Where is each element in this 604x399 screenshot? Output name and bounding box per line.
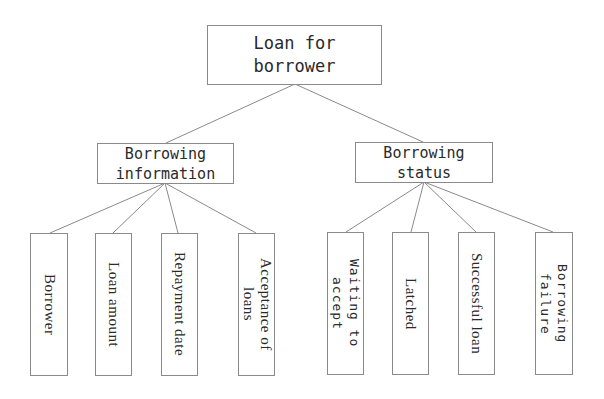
node-borrowing-information: Borrowing information [97, 143, 234, 184]
edge-root-to-borrowing-information [166, 84, 295, 143]
leaf-acceptance-of-loans: Acceptance of loans [238, 233, 275, 376]
leaf-latched-label: Latched [402, 278, 419, 330]
edge-status-to-successful [424, 182, 476, 232]
leaf-borrower-label: Borrower [41, 274, 58, 335]
leaf-acceptance-of-loans-label: Acceptance of loans [240, 258, 274, 351]
leaf-repayment-date: Repayment date [161, 233, 198, 376]
leaf-loan-amount-label: Loan amount [105, 262, 122, 347]
leaf-borrowing-failure-label: Borrowing failure [537, 264, 571, 343]
edge-root-to-borrowing-status [295, 84, 423, 142]
leaf-successful-loan-label: Successful loan [468, 253, 485, 354]
edge-info-to-acceptance [165, 183, 256, 233]
leaf-waiting-to-accept: Waiting to accept [327, 232, 364, 375]
leaf-borrower: Borrower [30, 233, 68, 376]
edge-info-to-borrower [50, 183, 165, 233]
edge-info-to-repayment-date [165, 183, 178, 233]
root-node-label: Loan for borrower [254, 32, 336, 78]
edge-status-to-waiting [346, 182, 424, 232]
node-borrowing-information-label: Borrowing information [116, 144, 215, 184]
root-node-loan-for-borrower: Loan for borrower [207, 25, 382, 85]
leaf-loan-amount: Loan amount [95, 233, 132, 376]
node-borrowing-status: Borrowing status [355, 142, 493, 183]
leaf-borrowing-failure: Borrowing failure [535, 232, 573, 375]
leaf-repayment-date-label: Repayment date [171, 252, 188, 356]
leaf-waiting-to-accept-label: Waiting to accept [329, 259, 363, 347]
edge-status-to-failure [424, 182, 553, 232]
leaf-successful-loan: Successful loan [458, 232, 495, 375]
edge-info-to-loan-amount [113, 183, 165, 233]
leaf-latched: Latched [392, 232, 429, 375]
node-borrowing-status-label: Borrowing status [383, 143, 464, 183]
